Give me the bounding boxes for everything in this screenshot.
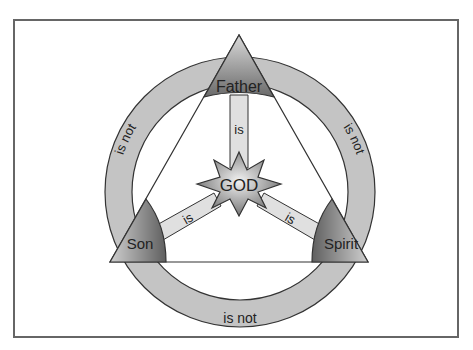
label-is-not-bottom: is not: [223, 310, 257, 326]
label-god: GOD: [220, 176, 259, 195]
label-spirit: Spirit: [324, 235, 359, 252]
trinity-diagram: Father Son Spirit GOD is is is is not is…: [0, 0, 473, 350]
label-father: Father: [216, 78, 263, 95]
label-son: Son: [127, 235, 154, 252]
label-is-father: is: [234, 122, 244, 137]
